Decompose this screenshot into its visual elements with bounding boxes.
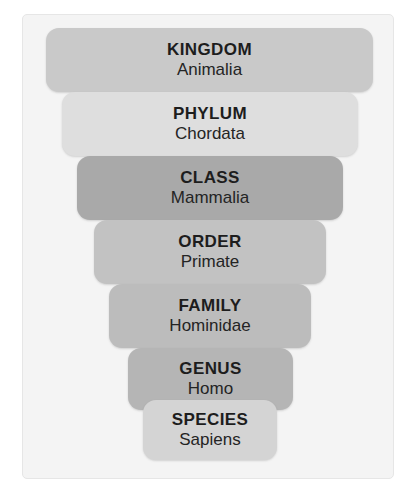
rank-bar-order: ORDER Primate xyxy=(94,220,326,284)
rank-label-species: SPECIES xyxy=(172,410,249,429)
rank-bar-kingdom: KINGDOM Animalia xyxy=(46,28,373,92)
rank-label-phylum: PHYLUM xyxy=(173,104,247,123)
rank-label-family: FAMILY xyxy=(178,296,241,315)
rank-bar-phylum: PHYLUM Chordata xyxy=(62,92,358,156)
rank-bar-class: CLASS Mammalia xyxy=(77,156,343,220)
rank-label-order: ORDER xyxy=(178,232,241,251)
taxon-name-class: Mammalia xyxy=(171,188,249,208)
rank-label-kingdom: KINGDOM xyxy=(167,40,252,59)
taxon-name-family: Hominidae xyxy=(169,316,250,336)
taxon-name-phylum: Chordata xyxy=(175,124,245,144)
taxonomic-rank-stack: KINGDOM Animalia PHYLUM Chordata CLASS M… xyxy=(0,0,420,499)
taxon-name-genus: Homo xyxy=(188,379,233,399)
rank-bar-family: FAMILY Hominidae xyxy=(109,284,311,348)
taxonomy-pyramid-figure: KINGDOM Animalia PHYLUM Chordata CLASS M… xyxy=(0,0,420,499)
taxon-name-kingdom: Animalia xyxy=(177,60,242,80)
taxon-name-order: Primate xyxy=(181,252,240,272)
rank-label-class: CLASS xyxy=(180,168,240,187)
rank-label-genus: GENUS xyxy=(179,359,241,378)
taxon-name-species: Sapiens xyxy=(179,430,240,450)
rank-bar-species: SPECIES Sapiens xyxy=(143,400,277,460)
